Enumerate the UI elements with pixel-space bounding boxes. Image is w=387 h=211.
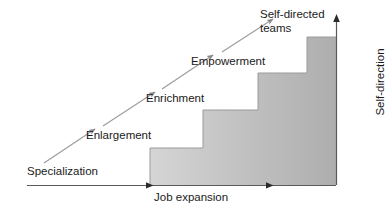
step-label-enrichment: Enrichment (146, 92, 204, 105)
staircase-shape (27, 37, 336, 185)
step-label-self-directed-teams: Self-directed teams (260, 7, 338, 35)
step-label-specialization: Specialization (27, 165, 98, 178)
step-label-empowerment: Empowerment (191, 55, 265, 68)
x-axis-label: Job expansion (154, 191, 228, 204)
staircase-fill (27, 37, 336, 185)
y-axis-label: Self-direction (338, 75, 387, 89)
y-axis-label-text: Self-direction (374, 37, 387, 127)
step-label-enlargement: Enlargement (86, 129, 151, 142)
